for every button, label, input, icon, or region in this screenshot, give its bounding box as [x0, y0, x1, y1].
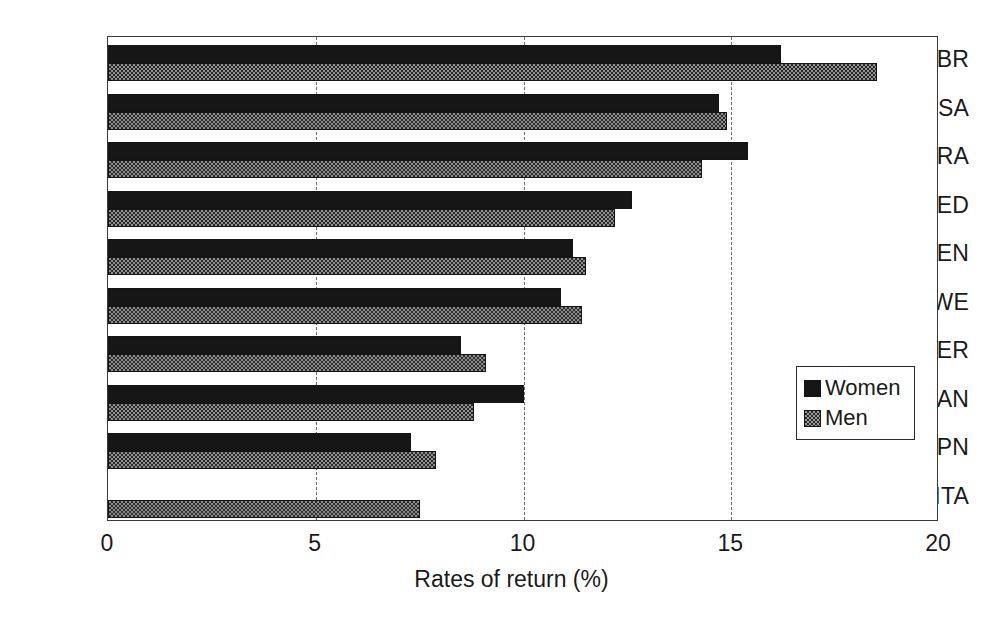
- legend-swatch-men-icon: [804, 410, 821, 427]
- bar-gbr-women: [108, 45, 781, 63]
- bar-group-ned: [108, 183, 937, 232]
- bar-chart: GBRUSAFRANEDDENSWEGERCANJPNITA 05101520 …: [0, 0, 983, 630]
- plot-area: [107, 36, 938, 521]
- x-axis-tick-10: 10: [488, 530, 558, 556]
- bar-fra-women: [108, 142, 748, 160]
- legend-label-men: Men: [825, 407, 868, 429]
- legend-entry-men: Men: [804, 403, 914, 433]
- legend-label-women: Women: [825, 377, 900, 399]
- bar-usa-women: [108, 94, 719, 112]
- bar-ger-men: [108, 354, 486, 372]
- bar-jpn-women: [108, 433, 411, 451]
- bar-den-women: [108, 239, 573, 257]
- x-axis-title: Rates of return (%): [0, 566, 983, 592]
- bar-group-den: [108, 231, 937, 280]
- x-axis-tick-5: 5: [280, 530, 350, 556]
- bar-group-usa: [108, 86, 937, 135]
- legend-swatch-women-icon: [804, 380, 821, 397]
- bar-group-swe: [108, 280, 937, 329]
- bar-ned-women: [108, 191, 632, 209]
- bar-den-men: [108, 257, 586, 275]
- x-axis-title-text: Rates of return (%): [414, 566, 608, 592]
- bar-can-men: [108, 403, 474, 421]
- bar-swe-women: [108, 288, 561, 306]
- bar-ita-men: [108, 500, 420, 518]
- bar-ger-women: [108, 336, 461, 354]
- bar-ned-men: [108, 209, 615, 227]
- chart-legend: WomenMen: [796, 366, 915, 440]
- bar-usa-men: [108, 112, 727, 130]
- bar-can-women: [108, 385, 524, 403]
- bar-group-fra: [108, 134, 937, 183]
- bar-group-gbr: [108, 37, 937, 86]
- bar-group-ita: [108, 474, 937, 523]
- bar-fra-men: [108, 160, 702, 178]
- x-axis-tick-0: 0: [72, 530, 142, 556]
- bar-gbr-men: [108, 63, 877, 81]
- x-axis-tick-20: 20: [903, 530, 973, 556]
- bar-jpn-men: [108, 451, 436, 469]
- legend-entry-women: Women: [804, 373, 914, 403]
- x-axis-tick-15: 15: [695, 530, 765, 556]
- bar-swe-men: [108, 306, 582, 324]
